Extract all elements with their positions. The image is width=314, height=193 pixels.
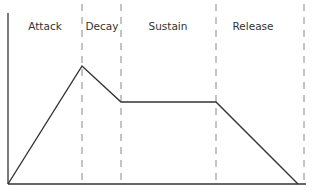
phase-label-release: Release — [232, 20, 273, 32]
phase-label-sustain: Sustain — [149, 20, 188, 32]
phase-label-decay: Decay — [86, 20, 119, 32]
phase-label-attack: Attack — [28, 20, 62, 32]
adsr-envelope-diagram: Attack Decay Sustain Release — [0, 0, 314, 193]
